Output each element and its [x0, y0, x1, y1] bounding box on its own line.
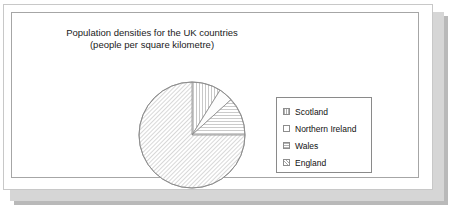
legend-label-northern-ireland: Northern Ireland [295, 124, 356, 134]
legend-item-wales[interactable]: Wales [283, 137, 371, 154]
legend-swatch-wales [283, 142, 290, 149]
pie-chart [127, 70, 257, 200]
legend-swatch-scotland [283, 108, 290, 115]
legend-swatch-england [283, 159, 290, 166]
legend-label-scotland: Scotland [295, 107, 328, 117]
chart-title: Population densities for the UK countrie… [12, 27, 292, 51]
legend-item-northern-ireland[interactable]: Northern Ireland [283, 120, 371, 137]
legend-item-scotland[interactable]: Scotland [283, 103, 371, 120]
legend-label-wales: Wales [295, 141, 318, 151]
legend-item-england[interactable]: England [283, 154, 371, 171]
pie-chart-svg [127, 70, 257, 200]
chart-card: Population densities for the UK countrie… [11, 12, 419, 178]
chart-legend: Scotland Northern Ireland Wales England [276, 97, 372, 173]
chart-title-line1: Population densities for the UK countrie… [66, 27, 238, 38]
chart-title-line2: (people per square kilometre) [12, 39, 292, 51]
legend-swatch-northern-ireland [283, 125, 290, 132]
legend-label-england: England [295, 158, 326, 168]
